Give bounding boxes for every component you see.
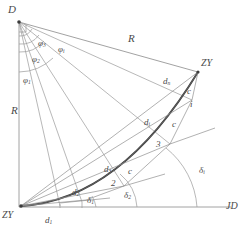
distance-label-d3: d3 bbox=[104, 165, 111, 175]
point-label-jd: JD bbox=[226, 201, 238, 211]
point-label-zy-top: ZY bbox=[201, 58, 212, 68]
angle-label-delta-i: δi bbox=[199, 166, 205, 176]
angle-label-phi-3: φ3 bbox=[38, 39, 46, 49]
angle-label-phi-2: φ2 bbox=[32, 55, 40, 65]
angle-label-delta-2: δ2 bbox=[124, 191, 131, 201]
tangent-ray-station-1 bbox=[60, 198, 110, 203]
distance-label-d2: d2 bbox=[72, 188, 79, 198]
short-chord-mid bbox=[124, 144, 170, 186]
dn-sub: n bbox=[168, 80, 171, 86]
delta-i-arc bbox=[166, 148, 197, 207]
point-label-d: D bbox=[8, 4, 16, 15]
radius-to-station-i bbox=[19, 22, 192, 100]
figure-canvas: D ZY ZY JD R R φ3 φi φ2 φ1 dn di d3 d2 d… bbox=[0, 0, 248, 236]
point-label-zy-bottom: ZY bbox=[2, 210, 13, 220]
chord-label-c-mid: c bbox=[172, 120, 176, 129]
radius-label-left: R bbox=[11, 105, 18, 116]
d2-sub: 2 bbox=[77, 191, 80, 197]
di-sub: i bbox=[149, 121, 151, 127]
radius-label-top: R bbox=[128, 33, 135, 44]
angle-label-delta-1: δ1 bbox=[87, 196, 94, 206]
radius-to-station-0 bbox=[19, 22, 60, 206]
vertex-dot-zy-bottom bbox=[19, 204, 23, 208]
radius-to-station-1 bbox=[19, 22, 82, 202]
phi-i-sub: i bbox=[63, 48, 65, 54]
angle-label-phi-i: φi bbox=[58, 45, 65, 55]
chord-to-station-i bbox=[21, 100, 192, 206]
d3-sub: 3 bbox=[109, 168, 112, 174]
station-label-3: 3 bbox=[156, 140, 161, 149]
distance-label-d1: d1 bbox=[45, 216, 52, 226]
angle-label-phi-1: φ1 bbox=[23, 76, 31, 86]
chord-label-c-top: c bbox=[187, 87, 191, 96]
chord-to-zy-top bbox=[21, 72, 198, 206]
distance-label-dn: dn bbox=[163, 77, 170, 87]
phi-1-sub: 1 bbox=[28, 79, 31, 85]
delta-1-sub: 1 bbox=[91, 199, 94, 205]
delta-2-sub: 2 bbox=[128, 194, 131, 200]
station-label-2: 2 bbox=[111, 179, 116, 188]
vertex-dot-d bbox=[17, 20, 21, 24]
phi-2-sub: 2 bbox=[37, 58, 40, 64]
chord-label-c-low: c bbox=[128, 167, 132, 176]
delta-i-sub: i bbox=[203, 169, 205, 175]
vertex-dot-zy-top bbox=[196, 70, 199, 73]
distance-label-di: di bbox=[144, 118, 150, 128]
phi-3-sub: 3 bbox=[43, 42, 46, 48]
d1-sub: 1 bbox=[50, 219, 53, 225]
station-label-i: i bbox=[190, 100, 193, 109]
